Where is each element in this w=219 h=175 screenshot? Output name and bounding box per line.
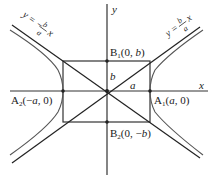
label-B2: B2(0, −b) (110, 127, 151, 141)
segment-label-b: b (110, 70, 116, 82)
svg-text:a: a (181, 24, 190, 34)
hyperbola-diagram: y x B1(0, b) B2(0, −b) A1(a, 0) A2(−a, 0… (0, 0, 219, 175)
point-A2 (61, 89, 65, 93)
segment-label-a: a (130, 79, 136, 91)
svg-text:y =: y = (162, 22, 180, 40)
origin-point (105, 89, 109, 93)
hyperbola-left-branch (10, 30, 63, 155)
label-A2: A2(−a, 0) (11, 94, 53, 108)
point-B2 (105, 120, 109, 124)
label-B1: B1(0, b) (110, 46, 145, 60)
y-axis-label: y (111, 3, 117, 15)
hyperbola-right-branch (150, 30, 203, 155)
asymptote-positive-label: y = b a x (161, 10, 198, 44)
point-A1 (148, 89, 152, 93)
point-B1 (105, 59, 109, 63)
label-A1: A1(a, 0) (154, 94, 190, 108)
svg-text:a: a (35, 28, 44, 38)
svg-text:x: x (45, 26, 56, 38)
x-axis-label: x (198, 79, 204, 91)
